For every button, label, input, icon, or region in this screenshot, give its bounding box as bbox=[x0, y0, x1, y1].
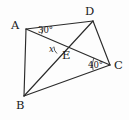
geometry-figure: A D C B E 30° 40° x bbox=[0, 0, 129, 120]
angle-arc-e bbox=[54, 47, 57, 54]
angle-label-e: x bbox=[49, 45, 54, 54]
vertex-label-e: E bbox=[62, 50, 70, 62]
segment-ab bbox=[24, 29, 26, 96]
angle-label-c: 40° bbox=[88, 61, 103, 70]
vertex-label-b: B bbox=[16, 100, 24, 112]
angle-label-a: 30° bbox=[38, 26, 53, 35]
vertex-label-d: D bbox=[85, 6, 94, 18]
segment-ad bbox=[26, 21, 93, 29]
vertex-label-a: A bbox=[11, 20, 19, 32]
vertex-label-c: C bbox=[114, 60, 123, 72]
